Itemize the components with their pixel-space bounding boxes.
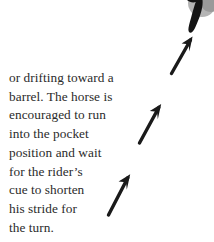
- arrow-top: [172, 36, 193, 73]
- caption-text: or drifting toward a barrel. The horse i…: [9, 69, 137, 237]
- arrow-middle: [140, 104, 162, 143]
- horse-hoof-fragment: [176, 0, 214, 40]
- document-page: or drifting toward a barrel. The horse i…: [0, 0, 214, 242]
